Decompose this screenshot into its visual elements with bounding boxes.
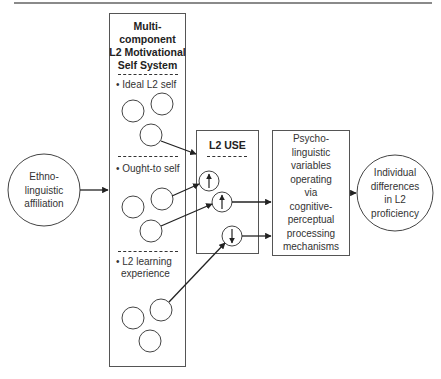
ought-to-self-circles (122, 188, 173, 242)
label-line: proficiency (357, 207, 433, 221)
l2-learning-experience-circles (122, 299, 172, 352)
label-line: Ethno- (8, 170, 80, 184)
ideal-l2-self-circles (122, 93, 173, 146)
label-line: Individual (357, 166, 433, 180)
proficiency-label: Individual differences in L2 proficiency (357, 166, 433, 220)
l2-use-indicators (199, 171, 242, 246)
label-line: affiliation (8, 197, 80, 211)
arrow-ideal-to-l2use (161, 141, 196, 154)
arrow-learning-to-indicator (169, 243, 225, 302)
label-line: linguistic (8, 184, 80, 198)
arrow-ought-to-indicator (172, 184, 199, 196)
label-line: differences (357, 180, 433, 194)
label-line: in L2 (357, 193, 433, 207)
ethnolinguistic-label: Ethno- linguistic affiliation (8, 170, 80, 211)
